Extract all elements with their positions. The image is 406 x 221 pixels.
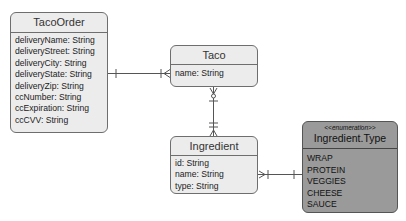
entity-attributes: id: String name: String type: String [171,156,257,192]
enum-value: CHEESE [307,188,397,200]
entity-attributes: name: String [171,65,257,79]
entity-title: Ingredient [171,137,257,156]
attribute: type: String [175,181,257,192]
enum-value: WRAP [307,153,397,165]
enum-ingredient-type[interactable]: <<enumeration>> Ingredient.Type WRAP PRO… [302,121,398,213]
entity-title: Taco [171,46,257,65]
enum-values: WRAP PROTEIN VEGGIES CHEESE SAUCE [303,149,397,211]
attribute: deliveryName: String [15,35,107,46]
attribute: deliveryState: String [15,69,107,80]
entity-tacoorder[interactable]: TacoOrder deliveryName: String deliveryS… [10,12,108,133]
relationship-tacoorder-taco [108,69,170,78]
relationship-taco-ingredient [209,87,218,136]
entity-ingredient[interactable]: Ingredient id: String name: String type:… [170,136,258,194]
entity-taco[interactable]: Taco name: String [170,45,258,87]
attribute: name: String [175,169,257,180]
enum-value: PROTEIN [307,165,397,177]
attribute: deliveryCity: String [15,58,107,69]
attribute: deliveryZip: String [15,81,107,92]
entity-title: TacoOrder [11,13,107,33]
entity-title: Ingredient.Type [303,132,397,144]
enum-value: VEGGIES [307,176,397,188]
attribute: ccCVV: String [15,115,107,126]
attribute: name: String [175,68,257,79]
enum-value: SAUCE [307,199,397,211]
enum-stereotype: <<enumeration>> [303,122,397,132]
entity-attributes: deliveryName: String deliveryStreet: Str… [11,33,107,126]
attribute: ccExpiration: String [15,103,107,114]
attribute: id: String [175,158,257,169]
enum-header: <<enumeration>> Ingredient.Type [303,122,397,149]
relationship-ingredient-type [258,170,302,179]
attribute: ccNumber: String [15,92,107,103]
attribute: deliveryStreet: String [15,46,107,57]
